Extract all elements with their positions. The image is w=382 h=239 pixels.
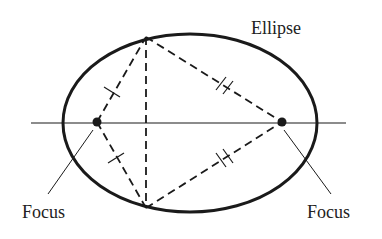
tick-mark: [223, 81, 233, 94]
tick-mark: [216, 77, 226, 90]
segment-left-focus-to-bottom: [97, 122, 146, 208]
single-tick-marks: [104, 87, 124, 163]
tick-mark: [223, 149, 233, 163]
left-focus-point: [93, 118, 102, 127]
ellipse-diagram: Ellipse Focus Focus: [0, 0, 382, 239]
left-focus-leader-line: [48, 130, 93, 194]
right-focus-leader-line: [284, 130, 331, 194]
right-focus-label: Focus: [307, 202, 350, 222]
segment-left-focus-to-top: [97, 37, 146, 122]
left-focus-label: Focus: [22, 202, 65, 222]
double-tick-marks: [216, 77, 233, 167]
right-focus-point: [278, 118, 287, 127]
ellipse-label: Ellipse: [251, 18, 301, 38]
tick-mark: [108, 153, 124, 163]
tick-mark: [216, 153, 226, 167]
